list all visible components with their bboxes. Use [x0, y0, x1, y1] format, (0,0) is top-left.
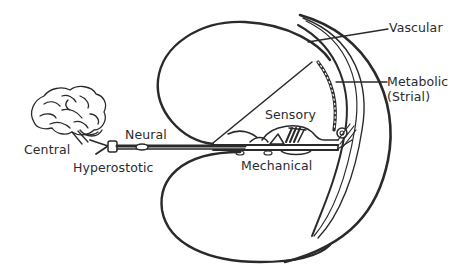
label-hyperostotic: Hyperostotic [73, 161, 153, 175]
central-pathways [90, 140, 108, 154]
cochlea-diagram [0, 0, 468, 277]
diagram-canvas: Central Hyperostotic Neural Sensory Mech… [0, 0, 468, 277]
label-metabolic: Metabolic (Strial) [387, 74, 448, 104]
label-metabolic-line2: (Strial) [387, 89, 448, 104]
label-metabolic-line1: Metabolic [387, 74, 448, 89]
label-central: Central [24, 143, 70, 157]
label-vascular: Vascular [389, 21, 443, 35]
label-sensory: Sensory [265, 108, 316, 122]
scala-vestibuli [158, 22, 330, 144]
organ-of-corti [213, 126, 338, 155]
label-mechanical: Mechanical [241, 159, 312, 173]
reissners-membrane [213, 62, 312, 143]
label-neural: Neural [125, 128, 167, 142]
brain-icon [32, 87, 106, 144]
outer-wall [285, 15, 391, 262]
stria-vascularis [318, 62, 335, 130]
